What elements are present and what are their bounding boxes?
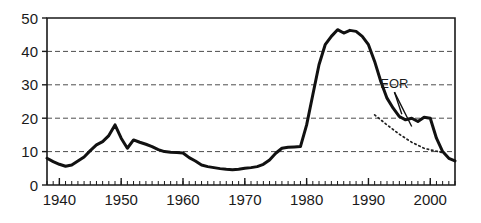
y-axis-tick-label: 30 xyxy=(21,76,38,93)
eor-annotation-label: EOR xyxy=(380,76,408,91)
x-axis-tick-label: 1980 xyxy=(290,191,323,208)
y-axis-tick-label: 10 xyxy=(21,143,38,160)
chart-background xyxy=(0,0,481,223)
x-axis-tick-label: 1970 xyxy=(228,191,261,208)
chart-figure: EOR 01020304050 194019501960197019801990… xyxy=(0,0,481,223)
x-axis-tick-label: 1990 xyxy=(352,191,385,208)
y-axis-tick-label: 20 xyxy=(21,110,38,127)
y-axis-tick-label: 50 xyxy=(21,10,38,27)
x-axis-tick-label: 1940 xyxy=(43,191,76,208)
y-axis-tick-label: 0 xyxy=(30,177,38,194)
x-axis-tick-label: 2000 xyxy=(414,191,447,208)
x-axis-tick-label: 1960 xyxy=(166,191,199,208)
y-axis-tick-label: 40 xyxy=(21,43,38,60)
chart-canvas: EOR 01020304050 194019501960197019801990… xyxy=(0,0,481,223)
x-axis-tick-label: 1950 xyxy=(104,191,137,208)
